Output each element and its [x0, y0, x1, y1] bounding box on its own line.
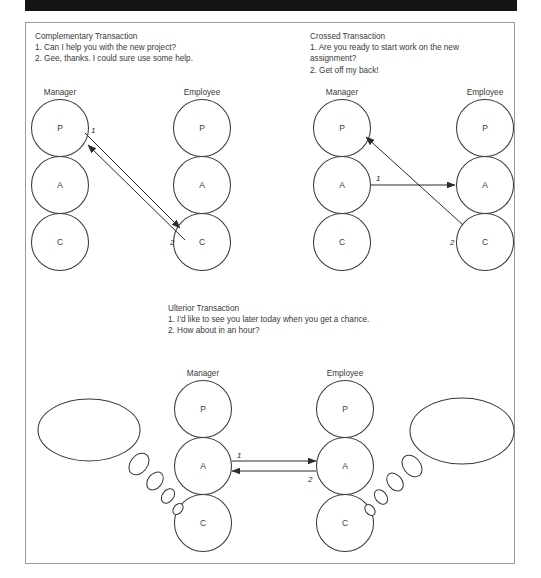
- label-manager-adult: A: [57, 180, 63, 190]
- manager-thought-bubble[interactable]: [38, 399, 140, 461]
- diagram-canvas: P A C P A C 1 2 P A C P A C 1 2 P: [0, 0, 541, 578]
- manager-thought-dot-3: [159, 486, 178, 506]
- crossed-manager-column: P A C: [314, 100, 371, 271]
- label-crossed-employee-adult: A: [482, 180, 488, 190]
- employee-thought-dot-2: [383, 470, 406, 494]
- crossed-arrow-2-number: 2: [449, 238, 455, 247]
- label-crossed-manager-adult: A: [339, 180, 345, 190]
- employee-thought-dot-1: [398, 451, 426, 480]
- label-employee-adult: A: [199, 180, 205, 190]
- label-manager-parent: P: [57, 123, 63, 133]
- ulterior-arrow-1-number: 1: [237, 451, 241, 460]
- label-ulterior-employee-adult: A: [342, 461, 348, 471]
- label-crossed-manager-child: C: [339, 237, 345, 247]
- label-employee-child: C: [199, 237, 205, 247]
- complementary-arrow-1: [85, 133, 180, 228]
- label-ulterior-manager-child: C: [200, 518, 206, 528]
- employee-thought-dot-3: [372, 487, 391, 507]
- crossed-arrow-1-number: 1: [376, 174, 380, 183]
- label-ulterior-employee-parent: P: [342, 404, 348, 414]
- label-manager-child: C: [57, 237, 63, 247]
- complementary-arrow-2-number: 2: [169, 238, 175, 247]
- ulterior-employee-column: P A C: [317, 381, 374, 552]
- label-ulterior-employee-child: C: [342, 518, 348, 528]
- complementary-arrow-1-number: 1: [91, 126, 95, 135]
- complementary-manager-column: P A C: [32, 100, 89, 271]
- complementary-employee-column: P A C: [174, 100, 231, 271]
- label-crossed-manager-parent: P: [339, 123, 345, 133]
- manager-thought-dot-1: [125, 449, 153, 478]
- crossed-employee-column: P A C: [457, 100, 514, 271]
- ulterior-manager-column: P A C: [175, 381, 232, 552]
- manager-thought-dot-2: [143, 469, 166, 493]
- crossed-arrow-2: [366, 137, 463, 225]
- label-crossed-employee-parent: P: [482, 123, 488, 133]
- label-employee-parent: P: [199, 123, 205, 133]
- label-ulterior-manager-adult: A: [200, 461, 206, 471]
- label-crossed-employee-child: C: [482, 237, 488, 247]
- employee-thought-bubble[interactable]: [410, 398, 514, 464]
- label-ulterior-manager-parent: P: [200, 404, 206, 414]
- complementary-arrow-2: [88, 145, 185, 240]
- ulterior-arrow-2-number: 2: [307, 475, 313, 484]
